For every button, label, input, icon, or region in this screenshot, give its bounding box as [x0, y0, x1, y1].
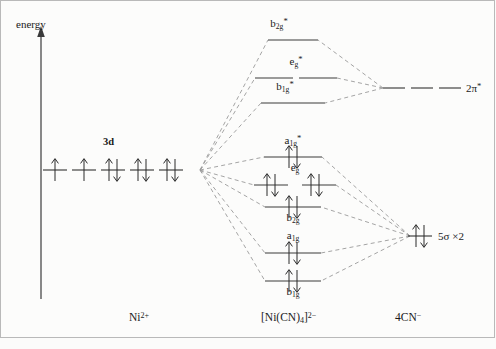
correlation-lines-5sigma: [321, 157, 410, 281]
orbital-label-b2g-star: b2g*: [270, 16, 287, 31]
orbital-label-b2g: b2g: [286, 211, 299, 225]
orbital-label-5sigma: 5σ ×2: [438, 230, 464, 242]
orbital-label-b1g-star: b1g*: [276, 79, 293, 94]
shell-label-3d: 3d: [103, 136, 114, 147]
mo-diagram-figure: energy 3d b2g* eg* b1g* a1g* eg b2g a1g …: [0, 0, 496, 349]
diagram-canvas: [0, 0, 496, 349]
fragment-label-nickel-tetracyanide: [Ni(CN)4]2−: [261, 311, 316, 325]
energy-axis-label: energy: [16, 18, 46, 30]
fragment-label-ni2plus: Ni2+: [129, 311, 149, 323]
orbital-label-b1g: b1g: [286, 285, 299, 299]
orbital-label-eg-star: eg*: [290, 54, 303, 69]
right-level-lines: [383, 88, 461, 236]
fragment-label-4cn-minus: 4CN−: [395, 311, 421, 323]
orbital-label-eg: eg: [291, 161, 300, 175]
orbital-label-2pi-star: 2π*: [466, 81, 481, 94]
energy-axis: [37, 26, 45, 299]
orbital-label-a1g-star: a1g*: [285, 133, 302, 148]
correlation-lines-left: [200, 40, 268, 281]
correlation-lines-2pi: [318, 40, 383, 103]
orbital-label-a1g: a1g: [287, 229, 299, 243]
